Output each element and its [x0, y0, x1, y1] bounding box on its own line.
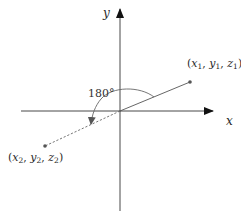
- angle-label: 180°: [88, 87, 115, 100]
- y-axis-label: y: [102, 6, 110, 20]
- vector-p1: [120, 82, 190, 111]
- point-p1-label: (x1, y1, z1): [187, 57, 241, 71]
- point-p2: [43, 144, 47, 148]
- point-p2-label: (x2, y2, z2): [8, 151, 63, 165]
- rotation-diagram: y x 180° (x1, y1, z1) (x2, y2, z2): [0, 0, 241, 219]
- x-axis-label: x: [226, 114, 233, 128]
- point-p1: [188, 80, 192, 84]
- vector-p2: [45, 111, 120, 146]
